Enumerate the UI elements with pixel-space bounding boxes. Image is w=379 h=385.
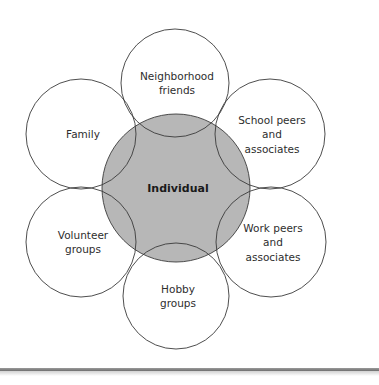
label-family: Family xyxy=(66,128,100,140)
label-school: associates xyxy=(245,143,300,155)
label-work: associates xyxy=(246,251,301,263)
label-school: School peers xyxy=(238,114,306,126)
label-work: and xyxy=(263,236,283,248)
label-work: Work peers xyxy=(243,222,302,234)
label-volunteer: groups xyxy=(65,243,101,255)
label-hobby: Hobby xyxy=(161,283,195,295)
social-network-diagram: NeighborhoodfriendsSchool peersandassoci… xyxy=(0,0,379,385)
label-hobby: groups xyxy=(160,297,196,309)
label-volunteer: Volunteer xyxy=(58,229,109,241)
label-individual: Individual xyxy=(147,182,208,195)
label-neighborhood: friends xyxy=(159,84,195,96)
label-school: and xyxy=(262,128,282,140)
label-neighborhood: Neighborhood xyxy=(140,70,214,82)
bottom-rule-shadow xyxy=(0,371,379,376)
